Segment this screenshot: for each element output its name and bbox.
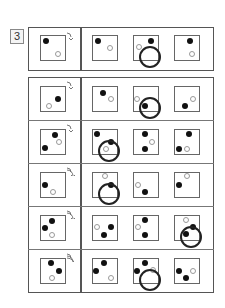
hollow-dot <box>184 146 190 152</box>
filled-dot <box>49 218 55 224</box>
rotation-arrow-icon <box>66 252 76 262</box>
hollow-dot <box>190 96 196 102</box>
filled-dot <box>176 182 182 188</box>
answer-circle-mark <box>139 46 161 68</box>
given-cell-row-5 <box>40 258 66 284</box>
filled-dot <box>148 38 154 44</box>
question-number: 3 <box>10 29 24 44</box>
given-cell-row-4 <box>40 215 66 241</box>
filled-dot <box>52 132 58 138</box>
rotation-arrow-icon <box>66 123 76 133</box>
hollow-dot <box>94 224 100 230</box>
filled-dot <box>56 268 62 274</box>
answer-circle-mark <box>139 269 161 291</box>
option-cell-row-1-1[interactable] <box>92 86 118 112</box>
option-cell-row-4-2[interactable] <box>133 215 159 241</box>
filled-dot <box>94 131 100 137</box>
hollow-dot <box>102 173 108 179</box>
given-cell-row-2 <box>40 129 66 155</box>
option-cell-row-1-3[interactable] <box>174 86 200 112</box>
filled-dot <box>186 131 192 137</box>
row-separator <box>28 249 214 250</box>
hollow-dot <box>49 275 55 281</box>
rotation-arrow-icon <box>66 80 76 90</box>
option-cell-row-2-2[interactable] <box>133 129 159 155</box>
filled-dot <box>93 268 99 274</box>
filled-dot <box>142 232 148 238</box>
rotation-arrow-icon <box>66 31 76 41</box>
filled-dot <box>100 90 106 96</box>
rotation-arrow-icon <box>66 166 76 176</box>
filled-dot <box>42 145 48 151</box>
hollow-dot <box>190 268 196 274</box>
rotation-arrow-icon <box>66 209 76 219</box>
example-divider <box>80 27 82 71</box>
option-cell-row-4-1[interactable] <box>92 215 118 241</box>
option-cell-row-3-2[interactable] <box>133 172 159 198</box>
hollow-dot <box>50 189 56 195</box>
given-cell-row-3 <box>40 172 66 198</box>
answer-circle-mark <box>180 226 202 248</box>
filled-dot <box>42 182 48 188</box>
hollow-dot <box>108 275 114 281</box>
filled-dot <box>142 189 148 195</box>
hollow-dot <box>184 173 190 179</box>
filled-dot <box>142 146 148 152</box>
option-cell-row-2-3[interactable] <box>174 129 200 155</box>
hollow-dot <box>134 96 140 102</box>
example-given-cell <box>40 35 66 61</box>
hollow-dot <box>135 182 141 188</box>
filled-dot <box>43 38 49 44</box>
hollow-dot <box>56 139 62 145</box>
filled-dot <box>142 131 148 137</box>
option-cell-row-5-1[interactable] <box>92 258 118 284</box>
example-option-3 <box>174 35 200 61</box>
hollow-dot <box>55 51 61 57</box>
filled-dot <box>142 217 148 223</box>
row-separator <box>28 120 214 121</box>
hollow-dot <box>108 96 114 102</box>
hollow-dot <box>149 139 155 145</box>
filled-dot <box>176 268 182 274</box>
example-option-1 <box>92 35 118 61</box>
given-cell-row-1 <box>40 86 66 112</box>
filled-dot <box>101 232 107 238</box>
filled-dot <box>48 260 54 266</box>
hollow-dot <box>46 103 52 109</box>
answer-circle-mark <box>139 97 161 119</box>
filled-dot <box>42 225 48 231</box>
filled-dot <box>95 38 101 44</box>
option-cell-row-3-3[interactable] <box>174 172 200 198</box>
filled-dot <box>182 103 188 109</box>
hollow-dot <box>49 232 55 238</box>
row-separator <box>28 206 214 207</box>
filled-dot <box>134 268 140 274</box>
row-separator <box>28 163 214 164</box>
hollow-dot <box>183 217 189 223</box>
answer-circle-mark <box>98 140 120 162</box>
filled-dot <box>142 260 148 266</box>
option-cell-row-5-3[interactable] <box>174 258 200 284</box>
answer-circle-mark <box>98 183 120 205</box>
filled-dot <box>101 260 107 266</box>
filled-dot <box>183 275 189 281</box>
hollow-dot <box>135 224 141 230</box>
hollow-dot <box>107 45 113 51</box>
puzzle-grid-divider <box>80 77 82 293</box>
hollow-dot <box>189 51 195 57</box>
filled-dot <box>108 224 114 230</box>
filled-dot <box>187 38 193 44</box>
filled-dot <box>176 146 182 152</box>
filled-dot <box>55 96 61 102</box>
